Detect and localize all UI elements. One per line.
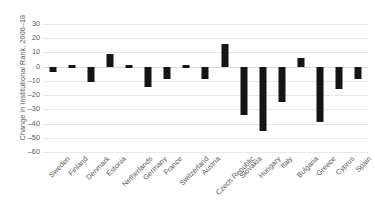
bar[interactable] xyxy=(336,67,343,90)
y-axis-tick-label: 20 xyxy=(18,35,40,42)
y-axis-tick-label: –20 xyxy=(18,91,40,98)
y-axis-tick-label: –10 xyxy=(18,77,40,84)
bar-slot xyxy=(330,24,349,152)
x-axis-tick-labels: SwedenFinlandDenmarkEstoniaNetherlandsGe… xyxy=(43,153,368,221)
x-tick-slot: Hungary xyxy=(253,153,272,221)
y-axis-tick-label: 30 xyxy=(18,20,40,27)
bar-slot xyxy=(177,24,196,152)
x-tick-slot: Germany xyxy=(139,153,158,221)
x-tick-slot: Sweden xyxy=(43,153,62,221)
bar[interactable] xyxy=(183,65,190,68)
bar[interactable] xyxy=(278,67,285,103)
y-axis-tick-label: 0 xyxy=(18,63,40,70)
x-tick-slot: Czech Republic xyxy=(215,153,234,221)
bar-slot xyxy=(100,24,119,152)
bar[interactable] xyxy=(145,67,152,87)
x-tick-slot: Slovakia xyxy=(234,153,253,221)
bar[interactable] xyxy=(49,67,56,73)
bar-slot xyxy=(43,24,62,152)
bar-slot xyxy=(62,24,81,152)
bar[interactable] xyxy=(259,67,266,131)
bar[interactable] xyxy=(87,67,94,83)
x-tick-slot: Spain xyxy=(349,153,368,221)
bar[interactable] xyxy=(202,67,209,80)
y-axis-tick-label: –60 xyxy=(18,148,40,155)
bar[interactable] xyxy=(240,67,247,115)
x-tick-slot: Greece xyxy=(311,153,330,221)
x-tick-slot: Austria xyxy=(196,153,215,221)
x-tick-slot: Bulgaria xyxy=(292,153,311,221)
y-axis-tick-label: –40 xyxy=(18,120,40,127)
bar-slot xyxy=(139,24,158,152)
bar-slot xyxy=(81,24,100,152)
plot-area xyxy=(43,24,368,152)
bar[interactable] xyxy=(298,58,305,67)
bar-slot xyxy=(215,24,234,152)
bar[interactable] xyxy=(164,67,171,80)
bar[interactable] xyxy=(126,65,133,68)
bar-slot xyxy=(349,24,368,152)
bar[interactable] xyxy=(355,67,362,80)
bar-slot xyxy=(292,24,311,152)
bar-slot xyxy=(272,24,291,152)
bar-slot xyxy=(253,24,272,152)
bar-chart: Change in Institutional Rank, 2006–18 30… xyxy=(0,0,375,221)
bars-series xyxy=(43,24,368,152)
bar-slot xyxy=(311,24,330,152)
bar[interactable] xyxy=(221,44,228,67)
bar-slot xyxy=(234,24,253,152)
x-tick-slot: Estonia xyxy=(100,153,119,221)
x-tick-slot: Netherlands xyxy=(119,153,138,221)
bar[interactable] xyxy=(68,65,75,68)
x-axis-tick-label: Spain xyxy=(355,155,373,173)
x-tick-slot: Denmark xyxy=(81,153,100,221)
y-axis-tick-label: 10 xyxy=(18,49,40,56)
bar[interactable] xyxy=(317,67,324,122)
bar-slot xyxy=(196,24,215,152)
x-tick-slot: France xyxy=(158,153,177,221)
y-axis-tick-labels: 3020100–10–20–30–40–50–60 xyxy=(18,24,40,152)
bar-slot xyxy=(158,24,177,152)
x-tick-slot: Switzerland xyxy=(177,153,196,221)
bar[interactable] xyxy=(106,54,113,67)
y-axis-tick-label: –50 xyxy=(18,134,40,141)
bar-slot xyxy=(119,24,138,152)
x-tick-slot: Finland xyxy=(62,153,81,221)
y-axis-tick-label: –30 xyxy=(18,106,40,113)
x-tick-slot: Italy xyxy=(272,153,291,221)
x-tick-slot: Cyprus xyxy=(330,153,349,221)
